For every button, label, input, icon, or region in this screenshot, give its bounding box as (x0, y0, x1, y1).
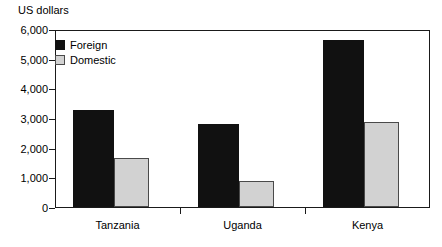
bar-uganda-domestic (239, 181, 274, 207)
x-axis-label-uganda: Uganda (223, 219, 262, 231)
x-tick-mark (180, 208, 181, 214)
y-tick-mark (49, 30, 55, 31)
legend-swatch-foreign-icon (55, 40, 65, 50)
bar-kenya-domestic (364, 122, 399, 207)
x-axis-label-kenya: Kenya (352, 219, 383, 231)
y-tick-label: 2,000 (20, 143, 48, 155)
bar-tanzania-domestic (114, 158, 149, 207)
chart-container: US dollars 01,0002,0003,0004,0005,0006,0… (0, 0, 442, 247)
y-tick-label: 0 (42, 202, 48, 214)
legend-label-foreign: Foreign (70, 39, 107, 51)
y-tick-label: 6,000 (20, 24, 48, 36)
legend-item-foreign: Foreign (55, 38, 116, 52)
y-tick-mark (49, 60, 55, 61)
y-tick-label: 4,000 (20, 83, 48, 95)
y-tick-label: 1,000 (20, 172, 48, 184)
y-tick-mark (49, 89, 55, 90)
y-tick-mark (49, 178, 55, 179)
legend-swatch-domestic-icon (55, 55, 65, 65)
y-tick-mark (49, 208, 55, 209)
x-axis-label-tanzania: Tanzania (95, 219, 139, 231)
legend: Foreign Domestic (55, 38, 116, 68)
y-axis: 01,0002,0003,0004,0005,0006,000 (0, 0, 48, 247)
y-tick-label: 5,000 (20, 54, 48, 66)
legend-item-domestic: Domestic (55, 53, 116, 67)
x-tick-mark (305, 208, 306, 214)
bar-kenya-foreign (323, 40, 364, 207)
legend-label-domestic: Domestic (70, 54, 116, 66)
bar-tanzania-foreign (73, 110, 114, 207)
y-tick-mark (49, 149, 55, 150)
y-tick-label: 3,000 (20, 113, 48, 125)
y-tick-mark (49, 119, 55, 120)
bar-uganda-foreign (198, 124, 239, 207)
